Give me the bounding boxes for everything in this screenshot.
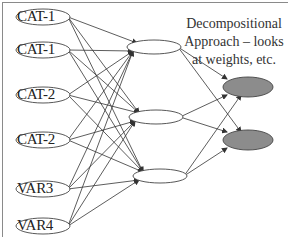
edge — [68, 50, 133, 51]
caption-line-3: at weights, etc. — [184, 51, 284, 69]
edge — [68, 51, 133, 226]
edge — [68, 180, 139, 189]
input-node-label: CAT-1 — [17, 9, 55, 24]
caption-line-2: Approach – looks — [184, 33, 284, 51]
edge — [68, 51, 133, 95]
hidden-node — [133, 169, 187, 183]
caption-line-1: Decompositional — [184, 15, 284, 33]
edge — [184, 148, 227, 176]
approach-caption: Decompositional Approach – looks at weig… — [184, 15, 284, 69]
output-node — [223, 130, 273, 150]
edge — [68, 50, 139, 113]
output-node — [223, 77, 273, 97]
edge — [68, 51, 133, 140]
input-node-label: CAT-1 — [17, 42, 55, 57]
edge — [68, 180, 139, 226]
edge — [180, 95, 227, 117]
hidden-node — [129, 110, 183, 124]
edge — [68, 17, 143, 172]
edge — [68, 121, 135, 189]
edge — [68, 17, 139, 113]
hidden-node — [127, 40, 181, 54]
input-node-label: VAR3 — [17, 181, 53, 196]
input-node-label: CAT-2 — [17, 87, 55, 102]
edge — [68, 51, 133, 189]
input-node-label: VAR4 — [17, 218, 53, 233]
input-node-label: CAT-2 — [17, 132, 55, 147]
neural-network-diagram: CAT-1CAT-1CAT-2CAT-2VAR3VAR4 Decompositi… — [0, 0, 288, 237]
